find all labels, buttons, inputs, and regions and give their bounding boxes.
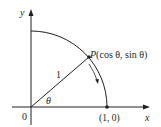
point-P-coords: (cos θ, sin θ) <box>96 49 147 61</box>
point-1-0-dot <box>105 105 109 109</box>
y-axis-label: y <box>19 7 25 18</box>
angle-theta-label: θ <box>46 95 51 106</box>
radius-label: 1 <box>56 69 61 80</box>
origin-label: 0 <box>22 111 27 122</box>
y-axis-arrow-icon <box>29 9 34 16</box>
point-P-name: P <box>89 49 96 60</box>
x-axis-arrow-icon <box>143 105 150 110</box>
point-1-0-label: (1, 0) <box>99 113 120 124</box>
unit-circle-diagram: y x 0 (1, 0) 1 θ P(cos θ, sin θ) <box>0 0 161 127</box>
y-axis <box>29 9 34 125</box>
motion-arrow-icon <box>89 64 99 84</box>
point-P-label: P(cos θ, sin θ) <box>89 49 147 61</box>
radius-segment <box>31 57 89 107</box>
x-axis-label: x <box>144 112 150 123</box>
unit-circle-arc <box>31 31 107 107</box>
